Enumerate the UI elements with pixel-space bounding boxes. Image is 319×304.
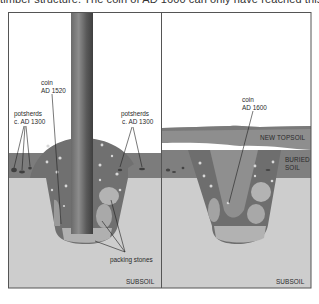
coin-date-label: AD 1600 [242,104,267,111]
left-panel: coin AD 1520 potsherds c. AD 1300 potshe… [9,12,161,288]
packing-stone [247,204,265,224]
potsherds-left-date-label: c. AD 1300 [14,118,46,125]
packing-stone [251,182,271,202]
coin-label: coin [41,79,53,86]
coin-date-label: AD 1520 [41,87,66,94]
coin-label: coin [242,96,254,103]
packing-stone [208,198,220,222]
potsherds-right-label: potsherds [121,110,149,118]
buried-soil-label-1: BURIED [285,156,310,163]
packing-stone [99,187,119,205]
subsoil-label-left: SUBSOIL [126,278,155,285]
packing-stone [214,226,266,243]
buried-soil-label-2: SOIL [285,164,300,171]
archaeology-diagram: coin AD 1520 potsherds c. AD 1300 potshe… [0,0,319,304]
timber-post [71,12,93,234]
subsoil-label-right: SUBSOIL [276,278,305,285]
potsherds-left-label: potsherds [14,110,42,118]
new-topsoil-label: NEW TOPSOIL [260,134,306,141]
packing-stones-label: packing stones [110,256,153,264]
potsherds-right-date-label: c. AD 1300 [122,118,154,125]
right-panel: coin AD 1600 NEW TOPSOIL BURIED SOIL SUB… [162,13,311,288]
packing-stone [96,204,112,228]
